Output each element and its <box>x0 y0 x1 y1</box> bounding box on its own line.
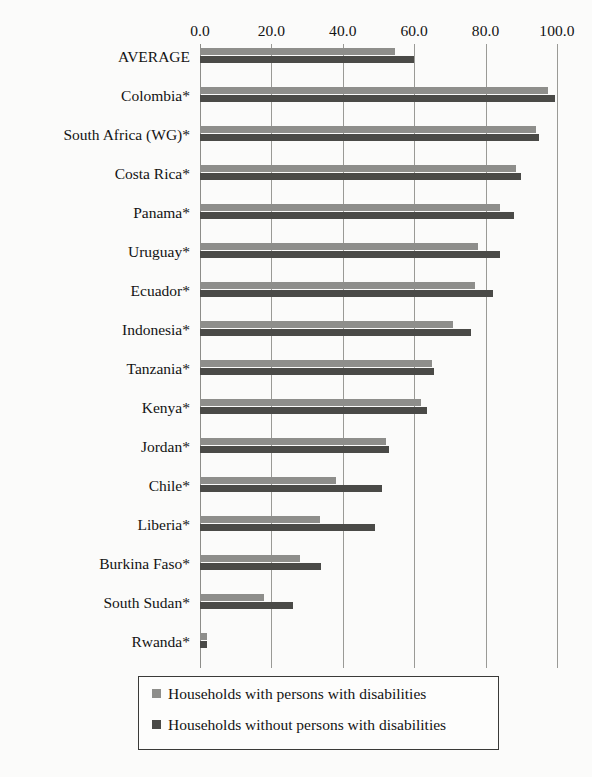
bar-with-disabilities <box>200 87 548 94</box>
bar-with-disabilities <box>200 126 536 133</box>
bar-without-disabilities <box>200 95 555 102</box>
bar-without-disabilities <box>200 602 293 609</box>
bar-with-disabilities <box>200 165 516 172</box>
bar-without-disabilities <box>200 329 471 336</box>
plot-area: 0.020.040.060.080.0100.0 AVERAGEColombia… <box>0 0 592 680</box>
bar-without-disabilities <box>200 212 514 219</box>
category-label: AVERAGE <box>118 50 190 66</box>
bar-with-disabilities <box>200 48 395 55</box>
category-label: South Sudan* <box>103 596 190 612</box>
category-label: Burkina Faso* <box>99 557 190 573</box>
bar-without-disabilities <box>200 446 389 453</box>
bar-without-disabilities <box>200 485 382 492</box>
legend-item-without-disabilities: Households without persons with disabili… <box>152 717 446 733</box>
bar-with-disabilities <box>200 516 320 523</box>
bar-with-disabilities <box>200 438 386 445</box>
category-label: Kenya* <box>142 401 190 417</box>
category-label: Uruguay* <box>128 245 190 261</box>
category-label: Panama* <box>133 206 190 222</box>
category-label: Tanzania* <box>127 362 190 378</box>
legend-item-with-disabilities: Households with persons with disabilitie… <box>152 686 426 702</box>
bar-with-disabilities <box>200 360 432 367</box>
bar-with-disabilities <box>200 594 264 601</box>
legend-label-with: Households with persons with disabilitie… <box>168 686 426 702</box>
x-tick-label: 100.0 <box>539 22 574 40</box>
category-label: Rwanda* <box>131 635 190 651</box>
category-label: Indonesia* <box>122 323 190 339</box>
chart-legend: Households with persons with disabilitie… <box>138 676 499 750</box>
bar-without-disabilities <box>200 407 427 414</box>
bar-without-disabilities <box>200 641 207 648</box>
x-tick-label: 0.0 <box>190 22 210 40</box>
category-label: Costa Rica* <box>115 167 190 183</box>
legend-swatch-icon-with <box>152 689 161 698</box>
bar-without-disabilities <box>200 524 375 531</box>
gridline <box>557 44 558 668</box>
category-label: Jordan* <box>141 440 190 456</box>
legend-swatch-icon-without <box>152 720 161 729</box>
bar-with-disabilities <box>200 204 500 211</box>
x-tick-label: 80.0 <box>472 22 500 40</box>
bar-without-disabilities <box>200 251 500 258</box>
bar-with-disabilities <box>200 555 300 562</box>
category-label: Chile* <box>149 479 190 495</box>
bar-with-disabilities <box>200 633 207 640</box>
category-label: Colombia* <box>121 89 190 105</box>
category-axis-labels: AVERAGEColombia*South Africa (WG)*Costa … <box>0 44 196 668</box>
bar-without-disabilities <box>200 368 434 375</box>
x-tick-label: 60.0 <box>400 22 428 40</box>
bars-panel <box>200 44 557 668</box>
bar-with-disabilities <box>200 243 478 250</box>
bar-without-disabilities <box>200 134 539 141</box>
bar-with-disabilities <box>200 321 453 328</box>
bar-with-disabilities <box>200 477 336 484</box>
legend-label-without: Households without persons with disabili… <box>168 717 446 733</box>
bar-without-disabilities <box>200 563 321 570</box>
x-tick-label: 40.0 <box>329 22 357 40</box>
category-label: Liberia* <box>137 518 190 534</box>
bar-with-disabilities <box>200 282 475 289</box>
bar-without-disabilities <box>200 290 493 297</box>
bar-without-disabilities <box>200 173 521 180</box>
category-label: South Africa (WG)* <box>63 128 190 144</box>
bar-without-disabilities <box>200 56 414 63</box>
chart-figure: 0.020.040.060.080.0100.0 AVERAGEColombia… <box>0 0 592 777</box>
x-axis-tick-labels: 0.020.040.060.080.0100.0 <box>0 22 592 42</box>
bar-with-disabilities <box>200 399 421 406</box>
category-label: Ecuador* <box>131 284 190 300</box>
x-tick-label: 20.0 <box>258 22 286 40</box>
